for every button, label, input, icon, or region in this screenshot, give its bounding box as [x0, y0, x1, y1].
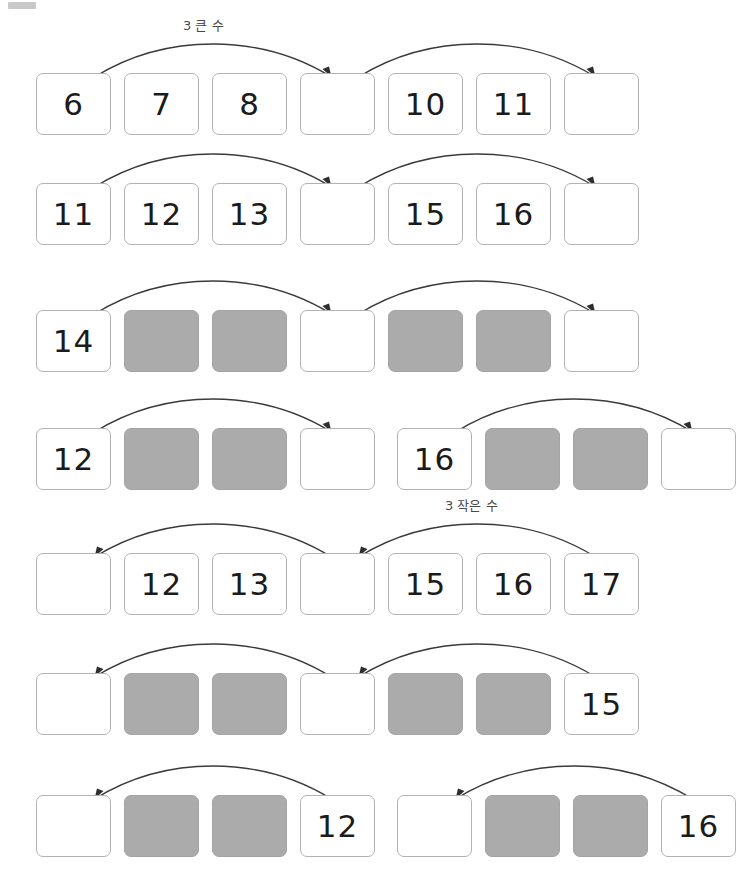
number-row: 14 — [0, 310, 720, 374]
answer-box[interactable] — [564, 73, 639, 135]
box-group: 14 — [36, 310, 639, 372]
box-group: 1213151617 — [36, 553, 639, 615]
box-group: 12 — [36, 428, 375, 490]
number-box: 16 — [476, 183, 551, 245]
answer-box[interactable] — [300, 673, 375, 735]
answer-box[interactable] — [300, 553, 375, 615]
shaded-box[interactable] — [212, 673, 287, 735]
box-group: 12 — [36, 795, 375, 857]
answer-box[interactable] — [300, 183, 375, 245]
answer-box[interactable] — [564, 310, 639, 372]
number-box: 12 — [124, 553, 199, 615]
box-group-container: 15 — [36, 673, 639, 735]
number-row: 1216 — [0, 795, 720, 859]
number-box: 12 — [124, 183, 199, 245]
answer-box[interactable] — [300, 310, 375, 372]
shaded-box[interactable] — [212, 310, 287, 372]
answer-box[interactable] — [300, 428, 375, 490]
box-group: 15 — [36, 673, 639, 735]
answer-box[interactable] — [36, 553, 111, 615]
number-box: 8 — [212, 73, 287, 135]
shaded-box[interactable] — [476, 673, 551, 735]
shaded-box[interactable] — [485, 428, 560, 490]
box-group-container: 1112131516 — [36, 183, 639, 245]
number-box: 17 — [564, 553, 639, 615]
shaded-box[interactable] — [476, 310, 551, 372]
answer-box[interactable] — [36, 795, 111, 857]
answer-box[interactable] — [397, 795, 472, 857]
number-box: 15 — [388, 553, 463, 615]
number-box: 12 — [300, 795, 375, 857]
number-box: 16 — [661, 795, 736, 857]
number-box: 11 — [476, 73, 551, 135]
number-row: 3 작은 수1213151617 — [0, 553, 720, 617]
box-group-container: 6781011 — [36, 73, 639, 135]
answer-box[interactable] — [564, 183, 639, 245]
box-group-container: 1216 — [36, 795, 736, 857]
number-box: 12 — [36, 428, 111, 490]
number-row: 3 큰 수6781011 — [0, 73, 720, 137]
shaded-box[interactable] — [485, 795, 560, 857]
shaded-box[interactable] — [573, 428, 648, 490]
number-box: 15 — [388, 183, 463, 245]
shaded-box[interactable] — [124, 795, 199, 857]
shaded-box[interactable] — [124, 428, 199, 490]
shaded-box[interactable] — [573, 795, 648, 857]
shaded-box[interactable] — [212, 795, 287, 857]
corner-mark — [8, 2, 36, 9]
box-group-container: 1213151617 — [36, 553, 639, 615]
answer-box[interactable] — [36, 673, 111, 735]
number-row: 15 — [0, 673, 720, 737]
answer-box[interactable] — [661, 428, 736, 490]
number-box: 11 — [36, 183, 111, 245]
number-box: 16 — [397, 428, 472, 490]
box-group: 1112131516 — [36, 183, 639, 245]
number-row: 1216 — [0, 428, 720, 492]
shaded-box[interactable] — [124, 310, 199, 372]
box-group: 16 — [397, 795, 736, 857]
number-row: 1112131516 — [0, 183, 720, 247]
number-box: 14 — [36, 310, 111, 372]
shaded-box[interactable] — [212, 428, 287, 490]
number-box: 16 — [476, 553, 551, 615]
number-box: 13 — [212, 553, 287, 615]
number-box: 10 — [388, 73, 463, 135]
box-group-container: 14 — [36, 310, 639, 372]
number-box: 6 — [36, 73, 111, 135]
number-box: 7 — [124, 73, 199, 135]
arc-label: 3 작은 수 — [440, 495, 503, 514]
box-group: 6781011 — [36, 73, 639, 135]
answer-box[interactable] — [300, 73, 375, 135]
number-box: 13 — [212, 183, 287, 245]
arc-label: 3 큰 수 — [178, 15, 229, 34]
shaded-box[interactable] — [388, 310, 463, 372]
box-group-container: 1216 — [36, 428, 736, 490]
box-group: 16 — [397, 428, 736, 490]
shaded-box[interactable] — [124, 673, 199, 735]
number-box: 15 — [564, 673, 639, 735]
shaded-box[interactable] — [388, 673, 463, 735]
